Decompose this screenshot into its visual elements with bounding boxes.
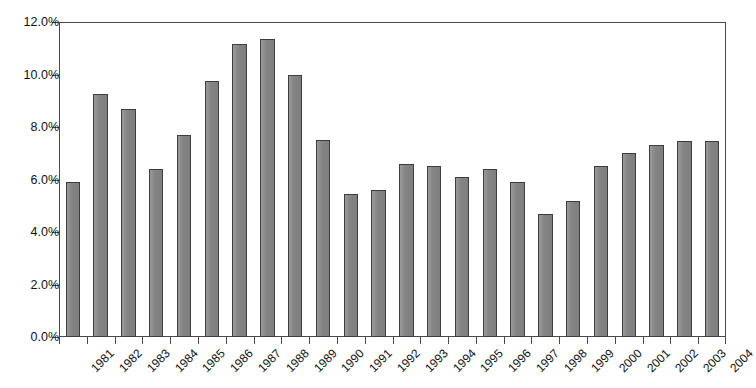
bar-1994 <box>427 166 441 337</box>
x-axis-tick <box>531 337 532 344</box>
x-axis-label-1998: 1998 <box>562 347 589 374</box>
bar-1995 <box>455 177 469 337</box>
x-axis-label-1981: 1981 <box>89 347 116 374</box>
x-axis: 1981198219831984198519861987198819891990… <box>59 337 726 388</box>
x-axis-label-1991: 1991 <box>367 347 394 374</box>
bar-1985 <box>177 135 191 337</box>
x-axis-tick <box>115 337 116 344</box>
x-axis-tick <box>365 337 366 344</box>
bar-1992 <box>371 190 385 337</box>
x-axis-tick <box>587 337 588 344</box>
x-axis-label-1984: 1984 <box>172 347 199 374</box>
x-axis-label-1988: 1988 <box>284 347 311 374</box>
bar-1983 <box>121 109 135 337</box>
x-axis-label-2001: 2001 <box>645 347 672 374</box>
x-axis-tick <box>559 337 560 344</box>
x-axis-label-1989: 1989 <box>311 347 338 374</box>
bar-1997 <box>510 182 524 337</box>
bar-1990 <box>316 140 330 337</box>
x-axis-label-1990: 1990 <box>339 347 366 374</box>
x-axis-tick <box>670 337 671 344</box>
x-axis-label-1996: 1996 <box>506 347 533 374</box>
y-axis-tick-label: 0.0% <box>11 331 59 343</box>
x-axis-label-1997: 1997 <box>534 347 561 374</box>
bar-2001 <box>622 153 636 337</box>
x-axis-tick <box>698 337 699 344</box>
x-axis-label-1986: 1986 <box>228 347 255 374</box>
x-axis-tick <box>198 337 199 344</box>
y-axis-tick-label: 2.0% <box>11 279 59 291</box>
bar-1984 <box>149 169 163 337</box>
bar-1998 <box>538 214 552 337</box>
bar-1999 <box>566 201 580 338</box>
x-axis-label-1999: 1999 <box>589 347 616 374</box>
x-axis-tick <box>170 337 171 344</box>
bar-1986 <box>205 81 219 337</box>
x-axis-tick <box>393 337 394 344</box>
y-axis-tick-label: 8.0% <box>11 121 59 133</box>
x-axis-tick <box>254 337 255 344</box>
y-axis: 0.0%2.0%4.0%6.0%8.0%10.0%12.0% <box>0 0 59 388</box>
x-axis-tick <box>281 337 282 344</box>
x-axis-tick <box>337 337 338 344</box>
x-axis-tick <box>476 337 477 344</box>
x-axis-label-2000: 2000 <box>617 347 644 374</box>
x-axis-tick <box>142 337 143 344</box>
bar-1981 <box>66 182 80 337</box>
x-axis-label-1982: 1982 <box>117 347 144 374</box>
y-axis-tick-label: 10.0% <box>11 69 59 81</box>
x-axis-tick <box>448 337 449 344</box>
chart-title <box>150 0 410 3</box>
x-axis-label-2004: 2004 <box>728 347 755 374</box>
bar-1996 <box>483 169 497 337</box>
x-axis-tick <box>643 337 644 344</box>
bar-2002 <box>649 145 663 337</box>
x-axis-label-2002: 2002 <box>673 347 700 374</box>
y-axis-tick-label: 12.0% <box>11 16 59 28</box>
x-axis-tick <box>725 337 726 344</box>
bar-2004 <box>705 141 719 337</box>
bar-1988 <box>260 39 274 337</box>
bar-1993 <box>399 164 413 337</box>
x-axis-label-1992: 1992 <box>395 347 422 374</box>
x-axis-label-1983: 1983 <box>145 347 172 374</box>
x-axis-tick <box>59 337 60 344</box>
x-axis-label-2003: 2003 <box>700 347 727 374</box>
x-axis-tick <box>420 337 421 344</box>
x-axis-tick <box>615 337 616 344</box>
x-axis-label-1994: 1994 <box>450 347 477 374</box>
bar-2000 <box>594 166 608 337</box>
y-axis-tick-label: 6.0% <box>11 174 59 186</box>
x-axis-tick <box>87 337 88 344</box>
bar-1991 <box>344 194 358 337</box>
x-axis-label-1993: 1993 <box>423 347 450 374</box>
y-axis-tick-label: 4.0% <box>11 226 59 238</box>
bars-group <box>59 22 726 337</box>
x-axis-tick <box>504 337 505 344</box>
bar-1987 <box>232 44 246 337</box>
x-axis-tick <box>309 337 310 344</box>
x-axis-label-1987: 1987 <box>256 347 283 374</box>
bar-1982 <box>93 94 107 337</box>
x-axis-label-1985: 1985 <box>200 347 227 374</box>
bar-2003 <box>677 141 691 337</box>
x-axis-label-1995: 1995 <box>478 347 505 374</box>
bar-1989 <box>288 75 302 338</box>
x-axis-tick <box>226 337 227 344</box>
